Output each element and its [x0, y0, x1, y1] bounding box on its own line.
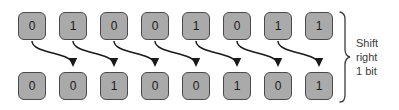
shift-annotation-line-2: right: [356, 50, 378, 64]
curly-brace-icon: [340, 12, 350, 102]
shift-right-diagram: 0100101100100101 Shift right 1 bit: [0, 0, 399, 110]
shift-annotation-line-1: Shift: [356, 36, 378, 50]
shift-annotation-label: Shift right 1 bit: [356, 36, 378, 78]
brace-layer: [0, 0, 399, 110]
shift-annotation-line-3: 1 bit: [356, 64, 378, 78]
